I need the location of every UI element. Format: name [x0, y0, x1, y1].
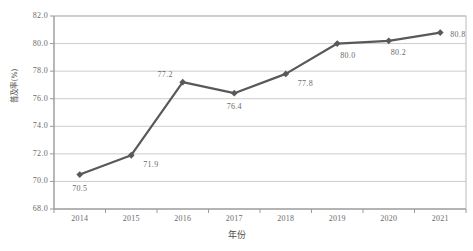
x-tick-label: 2021 — [410, 214, 470, 223]
data-point-label: 77.8 — [298, 79, 313, 88]
data-point-label: 80.2 — [391, 48, 406, 57]
data-point-label: 70.5 — [50, 184, 110, 193]
data-point-label: 80.0 — [340, 51, 355, 60]
data-point-label: 76.4 — [204, 102, 264, 111]
x-axis-tick-labels: 20142015201620172018201920202021 — [0, 0, 473, 251]
data-point-label: 77.2 — [113, 70, 173, 79]
data-point-label: 80.8 — [450, 30, 465, 39]
data-point-label: 71.9 — [143, 160, 158, 169]
line-chart: 普及率(%) 年份 82.080.078.076.074.072.070.068… — [0, 0, 473, 251]
